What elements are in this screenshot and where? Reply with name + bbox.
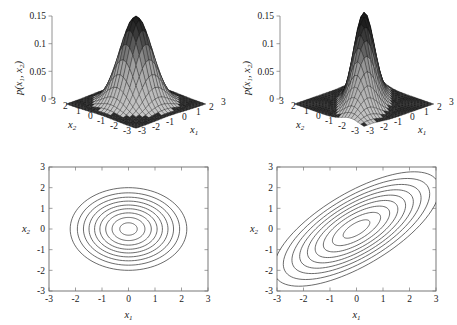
svg-text:0.15: 0.15 xyxy=(29,11,46,21)
contour-frame-left xyxy=(49,167,208,291)
x1-axis-label-right: x1 xyxy=(417,124,426,137)
svg-text:-1: -1 xyxy=(394,117,402,127)
contour-ticklabels-right: -3-3-2-2-1-100112233 xyxy=(265,162,439,304)
svg-text:3: 3 xyxy=(449,97,454,107)
svg-text:0: 0 xyxy=(268,224,273,234)
svg-text:1: 1 xyxy=(40,204,45,214)
surface-mesh-right xyxy=(294,12,434,126)
svg-text:-1: -1 xyxy=(166,117,174,127)
z-axis-right: 0.15 0.1 0.05 0 xyxy=(257,11,280,104)
panel-contour-left: -3-3-2-2-1-100112233 x1 x2 xyxy=(0,160,229,325)
svg-text:2: 2 xyxy=(437,102,442,112)
contour-ticklabels-left: -3-3-2-2-1-100112233 xyxy=(37,162,211,304)
svg-text:2: 2 xyxy=(63,101,68,111)
svg-text:-3: -3 xyxy=(123,126,131,136)
panel-contour-right: -3-3-2-2-1-100112233 x1 x2 xyxy=(228,160,457,325)
z-axis-left: 0.15 0.1 0.05 0 xyxy=(29,11,52,104)
svg-text:2: 2 xyxy=(40,183,45,193)
svg-text:1: 1 xyxy=(304,106,309,116)
contour-ylabel-right: x2 xyxy=(249,223,259,236)
svg-text:1: 1 xyxy=(381,294,386,304)
svg-text:1: 1 xyxy=(153,294,158,304)
svg-text:1: 1 xyxy=(268,204,273,214)
svg-text:3: 3 xyxy=(40,162,45,172)
svg-text:0: 0 xyxy=(316,111,321,121)
x1-axis-label-left: x1 xyxy=(189,124,198,137)
svg-text:0: 0 xyxy=(126,294,131,304)
panel-surface-right: 0.15 0.1 0.05 0 p(x1, x2) 3 2 1 0 -1 -2 … xyxy=(228,0,457,163)
contour-frame-right xyxy=(277,167,436,291)
svg-text:-3: -3 xyxy=(265,286,273,296)
svg-text:2: 2 xyxy=(209,102,214,112)
svg-text:0: 0 xyxy=(41,94,46,104)
contour-xlabel-right: x1 xyxy=(351,309,360,322)
svg-text:x1: x1 xyxy=(123,309,132,322)
svg-text:x1: x1 xyxy=(351,309,360,322)
x2-axis-label-left: x2 xyxy=(67,119,77,132)
svg-text:1: 1 xyxy=(424,107,429,117)
svg-text:-1: -1 xyxy=(326,294,334,304)
svg-text:-2: -2 xyxy=(300,294,308,304)
svg-text:0.05: 0.05 xyxy=(257,67,274,77)
svg-text:0.1: 0.1 xyxy=(34,39,46,49)
svg-text:p(x1, x2): p(x1, x2) xyxy=(241,61,254,96)
svg-text:-3: -3 xyxy=(138,126,146,136)
contour-ylabel-left: x2 xyxy=(21,223,31,236)
svg-text:0: 0 xyxy=(269,94,274,104)
svg-text:-2: -2 xyxy=(110,121,118,131)
svg-text:-3: -3 xyxy=(273,294,281,304)
svg-text:0.1: 0.1 xyxy=(262,39,274,49)
svg-text:2: 2 xyxy=(179,294,184,304)
zaxis-label-left: p(x1, x2) xyxy=(13,61,26,96)
svg-text:x1: x1 xyxy=(189,124,198,137)
svg-text:-3: -3 xyxy=(351,126,359,136)
contour-lines-right xyxy=(274,172,440,286)
svg-text:3: 3 xyxy=(268,162,273,172)
svg-text:-2: -2 xyxy=(380,122,388,132)
contour-ticks-right xyxy=(277,167,436,291)
svg-text:0: 0 xyxy=(40,224,45,234)
svg-text:3: 3 xyxy=(221,97,226,107)
svg-text:-2: -2 xyxy=(338,121,346,131)
contour-xlabel-left: x1 xyxy=(123,309,132,322)
svg-text:x2: x2 xyxy=(249,223,259,236)
svg-text:-2: -2 xyxy=(72,294,80,304)
svg-text:3: 3 xyxy=(434,294,439,304)
panel-surface-left: 0.15 0.1 0.05 0 p(x1, x2) 3 2 1 0 -1 -2 xyxy=(0,0,229,163)
svg-text:1: 1 xyxy=(196,107,201,117)
svg-text:0.15: 0.15 xyxy=(257,11,274,21)
svg-text:3: 3 xyxy=(51,96,56,106)
x2-axis-label-right: x2 xyxy=(295,119,305,132)
svg-text:x2: x2 xyxy=(295,119,305,132)
svg-text:3: 3 xyxy=(206,294,211,304)
svg-text:0: 0 xyxy=(88,111,93,121)
svg-text:-3: -3 xyxy=(45,294,53,304)
svg-text:x2: x2 xyxy=(67,119,77,132)
svg-text:x1: x1 xyxy=(417,124,426,137)
svg-text:-1: -1 xyxy=(97,116,105,126)
svg-text:2: 2 xyxy=(268,183,273,193)
contour-ticks-left xyxy=(49,167,208,291)
svg-text:-1: -1 xyxy=(325,116,333,126)
svg-text:2: 2 xyxy=(291,101,296,111)
svg-text:x2: x2 xyxy=(21,223,31,236)
svg-text:-3: -3 xyxy=(37,286,45,296)
svg-text:1: 1 xyxy=(76,106,81,116)
svg-text:-3: -3 xyxy=(366,126,374,136)
svg-text:-1: -1 xyxy=(37,245,45,255)
svg-text:-2: -2 xyxy=(37,266,45,276)
zaxis-label-right: p(x1, x2) xyxy=(241,61,254,96)
svg-text:-1: -1 xyxy=(98,294,106,304)
svg-text:0: 0 xyxy=(182,112,187,122)
svg-text:2: 2 xyxy=(407,294,412,304)
svg-text:0.05: 0.05 xyxy=(29,67,46,77)
figure-root: 0.15 0.1 0.05 0 p(x1, x2) 3 2 1 0 -1 -2 xyxy=(0,0,457,325)
svg-text:-2: -2 xyxy=(152,122,160,132)
svg-text:p(x1, x2): p(x1, x2) xyxy=(13,61,26,96)
contour-lines-left xyxy=(70,188,187,271)
svg-text:-2: -2 xyxy=(265,266,273,276)
svg-text:0: 0 xyxy=(410,112,415,122)
svg-text:-1: -1 xyxy=(265,245,273,255)
svg-text:3: 3 xyxy=(279,96,284,106)
svg-text:0: 0 xyxy=(354,294,359,304)
